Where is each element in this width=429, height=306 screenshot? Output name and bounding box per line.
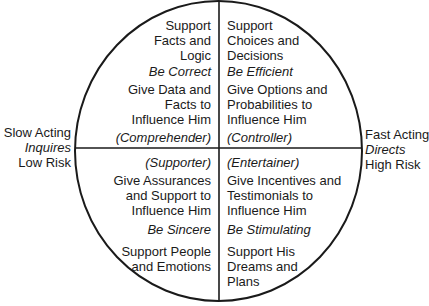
controller-support: Support Choices and Decisions bbox=[227, 18, 299, 63]
text-line: Influence Him bbox=[113, 203, 211, 218]
controller-influence: Give Options and Probabilities to Influe… bbox=[227, 82, 327, 127]
text-line: Influence Him bbox=[128, 112, 211, 127]
text-line: Influence Him bbox=[227, 203, 341, 218]
text-line: Dreams and bbox=[227, 259, 298, 274]
text-line: Logic bbox=[154, 48, 211, 63]
entertainer-motto: Be Stimulating bbox=[227, 222, 311, 237]
left-axis-label: Slow Acting Inquires Low Risk bbox=[4, 125, 71, 170]
text-line: Plans bbox=[227, 274, 298, 289]
text-line: Support People bbox=[121, 244, 211, 259]
comprehender-support: Support Facts and Logic bbox=[154, 18, 211, 63]
text-line: Choices and bbox=[227, 33, 299, 48]
text-line: Probabilities to bbox=[227, 97, 327, 112]
text-line: Support bbox=[227, 18, 299, 33]
text-line: Decisions bbox=[227, 48, 299, 63]
right-label-speed: Fast Acting bbox=[365, 127, 429, 142]
supporter-support: Support People and Emotions bbox=[121, 244, 211, 274]
controller-motto: Be Efficient bbox=[227, 64, 293, 79]
entertainer-type: (Entertainer) bbox=[227, 155, 299, 170]
right-axis-label: Fast Acting Directs High Risk bbox=[365, 127, 429, 172]
text-line: Facts to bbox=[128, 97, 211, 112]
left-label-speed: Slow Acting bbox=[4, 125, 71, 140]
text-line: Give Assurances bbox=[113, 173, 211, 188]
text-line: Give Options and bbox=[227, 82, 327, 97]
text-line: and Emotions bbox=[121, 259, 211, 274]
comprehender-motto: Be Correct bbox=[149, 64, 211, 79]
left-label-risk: Low Risk bbox=[4, 155, 71, 170]
text-line: Support His bbox=[227, 244, 298, 259]
entertainer-support: Support His Dreams and Plans bbox=[227, 244, 298, 289]
entertainer-influence: Give Incentives and Testimonials to Infl… bbox=[227, 173, 341, 218]
text-line: and Support to bbox=[113, 188, 211, 203]
text-line: Give Incentives and bbox=[227, 173, 341, 188]
supporter-influence: Give Assurances and Support to Influence… bbox=[113, 173, 211, 218]
controller-type: (Controller) bbox=[227, 130, 292, 145]
comprehender-type: (Comprehender) bbox=[116, 130, 211, 145]
text-line: Testimonials to bbox=[227, 188, 341, 203]
text-line: Give Data and bbox=[128, 82, 211, 97]
supporter-motto: Be Sincere bbox=[147, 222, 211, 237]
text-line: Facts and bbox=[154, 33, 211, 48]
text-line: Support bbox=[154, 18, 211, 33]
comprehender-influence: Give Data and Facts to Influence Him bbox=[128, 82, 211, 127]
supporter-type: (Supporter) bbox=[145, 155, 211, 170]
right-label-style: Directs bbox=[365, 142, 429, 157]
text-line: Influence Him bbox=[227, 112, 327, 127]
right-label-risk: High Risk bbox=[365, 157, 429, 172]
left-label-style: Inquires bbox=[4, 140, 71, 155]
